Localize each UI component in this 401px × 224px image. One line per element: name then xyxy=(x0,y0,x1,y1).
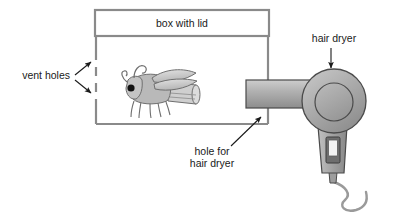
vent-holes-label: vent holes xyxy=(22,69,70,81)
dryer-switch-slider[interactable] xyxy=(329,140,338,156)
hair-dryer-annotation: hair dryer xyxy=(312,32,357,68)
fly-illustration xyxy=(122,66,200,118)
hole-label-line2: hair dryer xyxy=(190,157,235,169)
cord-strain-relief xyxy=(329,172,337,183)
power-cord xyxy=(334,182,367,211)
box-with-lid-label: box with lid xyxy=(156,17,208,29)
fly-eye xyxy=(127,84,134,91)
hole-label-line1: hole for xyxy=(194,145,230,157)
hair-dryer-label: hair dryer xyxy=(312,32,357,44)
hair-dryer xyxy=(246,69,367,211)
dryer-body-inner xyxy=(315,83,353,121)
diagram-canvas: box with lid vent holes xyxy=(0,0,401,224)
vent-holes-annotation: vent holes xyxy=(22,62,91,93)
vent-holes-arrow-upper xyxy=(75,62,91,75)
vent-holes-arrow-lower xyxy=(75,80,91,93)
diagram-illustration: box with lid vent holes xyxy=(0,0,401,224)
hole-arrow xyxy=(231,117,261,146)
